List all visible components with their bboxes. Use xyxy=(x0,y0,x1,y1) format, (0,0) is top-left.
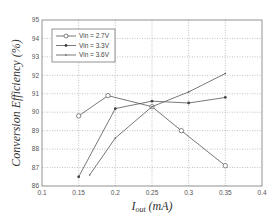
y-axis-label: Conversion Efficiency (%) xyxy=(9,39,23,166)
circle-marker-icon xyxy=(64,34,68,38)
circle-marker-icon xyxy=(106,93,110,97)
legend: Vin = 2.7V Vin = 3.3V Vin = 3.6V xyxy=(52,29,115,62)
x-tick-label: 0.1 xyxy=(37,189,46,196)
circle-marker-icon xyxy=(179,128,183,132)
y-tick-label: 95 xyxy=(32,16,40,23)
x-tick-label: 0.2 xyxy=(111,189,120,196)
y-tick-label: 89 xyxy=(32,127,40,134)
dot-marker-icon xyxy=(151,100,154,103)
circle-marker-icon xyxy=(223,164,227,168)
x-tick-label: 0.4 xyxy=(257,189,266,196)
point-marker-icon xyxy=(225,73,227,75)
x-tick-label: 0.15 xyxy=(72,189,85,196)
legend-label: Vin = 3.3V xyxy=(79,42,110,49)
series-line xyxy=(89,73,226,176)
x-tick-label: 0.3 xyxy=(184,189,193,196)
point-marker-icon xyxy=(89,174,91,176)
dot-marker-icon xyxy=(77,175,80,178)
point-marker-icon xyxy=(151,106,153,108)
efficiency-chart: 86878889909192939495 0.10.150.20.250.30.… xyxy=(0,0,279,222)
x-axis-ticks: 0.10.150.20.250.30.350.4 xyxy=(37,189,266,196)
dot-marker-icon xyxy=(224,96,227,99)
dot-marker-icon xyxy=(187,102,190,105)
legend-label: Vin = 2.7V xyxy=(79,32,110,39)
y-tick-label: 88 xyxy=(32,145,40,152)
legend-label: Vin = 3.6V xyxy=(79,51,110,58)
circle-marker-icon xyxy=(76,114,80,118)
y-axis-ticks: 86878889909192939495 xyxy=(32,16,40,189)
x-axis-label: Iout (mA) xyxy=(130,199,172,214)
y-tick-label: 91 xyxy=(32,90,40,97)
x-tick-label: 0.25 xyxy=(146,189,159,196)
point-marker-icon xyxy=(115,137,117,139)
dot-marker-icon xyxy=(65,44,68,47)
x-tick-label: 0.35 xyxy=(219,189,232,196)
y-tick-label: 87 xyxy=(32,164,40,171)
y-tick-label: 92 xyxy=(32,72,40,79)
y-tick-label: 90 xyxy=(32,108,40,115)
point-marker-icon xyxy=(65,54,67,56)
y-tick-label: 94 xyxy=(32,35,40,42)
point-marker-icon xyxy=(188,91,190,93)
y-tick-label: 93 xyxy=(32,53,40,60)
dot-marker-icon xyxy=(114,107,117,110)
